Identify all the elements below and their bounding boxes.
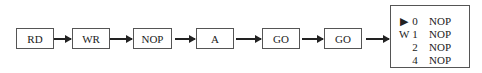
queue-index: 2 [410,41,420,54]
queue-op: NOP [429,28,451,41]
stage-go-2: GO [324,28,362,49]
arrow-icon [54,38,71,40]
queue-row: 4 NOP [391,54,469,67]
stage-rd: RD [16,28,54,49]
queue-index: 1 [410,28,420,41]
stage-label: GO [273,33,289,45]
arrow-icon [110,38,132,40]
stage-label: NOP [141,33,163,45]
queue-row: ▶ 0 NOP [391,15,469,28]
queue-row: 2 NOP [391,41,469,54]
arrow-icon [302,38,323,40]
stage-label: GO [335,33,351,45]
pointer-icon: ▶ [399,15,409,28]
stage-label: WR [82,33,100,45]
arrow-icon [175,38,195,40]
stage-go-1: GO [262,28,300,49]
queue-box: ▶ 0 NOP W 1 NOP 2 NOP 4 NOP [390,5,470,68]
stage-label: A [211,33,219,45]
arrow-icon [366,38,389,40]
queue-op: NOP [429,54,451,67]
stage-a: A [196,28,234,49]
write-marker: W [399,28,409,41]
stage-label: RD [27,33,42,45]
stage-nop: NOP [133,28,172,49]
queue-index: 4 [410,54,420,67]
queue-op: NOP [429,15,451,28]
stage-wr: WR [72,28,110,49]
queue-op: NOP [429,41,451,54]
queue-index: 0 [410,15,420,28]
queue-row: W 1 NOP [391,28,469,41]
arrow-icon [236,38,261,40]
